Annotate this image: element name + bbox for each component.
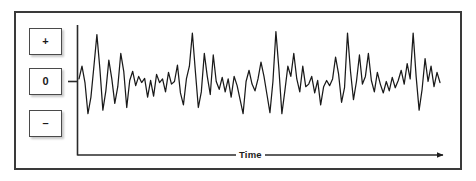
signal-waveform-trace: [79, 32, 440, 114]
x-axis-label-time: Time: [236, 149, 265, 160]
signal-figure: + 0 – Time: [0, 0, 476, 181]
